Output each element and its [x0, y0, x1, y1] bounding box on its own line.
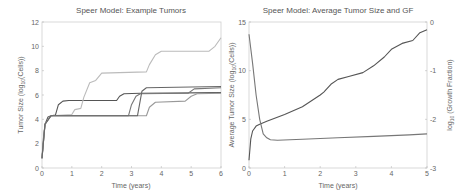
y2-tick-label: 0 — [430, 19, 434, 26]
right-y2-axis-label: log10 (Growth Fraction) — [446, 59, 455, 130]
y-tick-label: 5 — [242, 116, 246, 123]
x-tick-label: 3 — [130, 170, 134, 177]
right-y-label-a: Average Tumor Size (log — [228, 71, 236, 148]
x-tick-label: 0 — [40, 170, 44, 177]
right-y2-label-b: (Growth Fraction) — [446, 59, 454, 115]
right-series-lines — [249, 30, 427, 160]
y2-tick-label: -3 — [430, 165, 436, 172]
y2-tick-label: -2 — [430, 116, 436, 123]
x-tick-label: 1 — [283, 170, 287, 177]
x-tick-label: 1 — [70, 170, 74, 177]
left-x-axis-label: Time (years) — [111, 182, 150, 190]
x-tick-label: 2 — [318, 170, 322, 177]
y-tick-label: 0 — [35, 165, 39, 172]
average-tumor-size-gf-chart: Speer Model: Average Tumor Size and GF 0… — [228, 6, 455, 190]
left-y-axis-label: Tumor Size (log10(Cells)) — [17, 56, 26, 133]
left-y-label-a: Tumor Size (log — [17, 84, 25, 133]
y-tick-label: 15 — [238, 19, 246, 26]
y-tick-label: 8 — [35, 67, 39, 74]
y-tick-label: 12 — [31, 19, 39, 26]
series-line — [249, 34, 427, 140]
y-tick-label: 4 — [35, 116, 39, 123]
right-y2-label-a: log — [446, 121, 454, 130]
y-tick-label: 6 — [35, 92, 39, 99]
series-line — [42, 88, 221, 159]
y-tick-label: 10 — [238, 67, 246, 74]
example-tumors-chart: Speer Model: Example Tumors 0123456 0246… — [17, 6, 223, 190]
left-y-label-b: (Cells)) — [17, 56, 25, 79]
x-tick-label: 4 — [389, 170, 393, 177]
x-tick-label: 2 — [100, 170, 104, 177]
x-tick-label: 6 — [219, 170, 223, 177]
right-chart-title: Speer Model: Average Tumor Size and GF — [263, 6, 414, 15]
series-line — [42, 87, 221, 159]
y-tick-label: 10 — [31, 43, 39, 50]
x-tick-label: 4 — [159, 170, 163, 177]
x-tick-label: 0 — [247, 170, 251, 177]
y-tick-label: 2 — [35, 140, 39, 147]
left-chart-title: Speer Model: Example Tumors — [76, 6, 186, 15]
right-y-axis-label: Average Tumor Size (log10(Cells)) — [228, 42, 237, 147]
series-line — [42, 38, 221, 159]
x-tick-label: 3 — [354, 170, 358, 177]
series-line — [42, 93, 221, 158]
left-series-lines — [42, 38, 221, 159]
x-tick-label: 5 — [425, 170, 429, 177]
chart-figure: Speer Model: Example Tumors 0123456 0246… — [0, 0, 465, 196]
x-tick-label: 5 — [189, 170, 193, 177]
series-line — [42, 93, 221, 159]
y-tick-label: 0 — [242, 165, 246, 172]
right-y-label-b: (Cells)) — [228, 42, 236, 65]
y2-tick-label: -1 — [430, 67, 436, 74]
right-x-axis-label: Time (years) — [318, 182, 357, 190]
